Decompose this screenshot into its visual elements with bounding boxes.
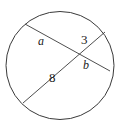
- circle-outline: [6, 12, 114, 120]
- geometry-canvas: [0, 0, 120, 130]
- segment-label-3: 3: [81, 33, 88, 46]
- geometry-figure: a 3 8 b: [0, 0, 120, 130]
- chord-8-3: [23, 32, 105, 103]
- segment-label-8: 8: [49, 71, 56, 84]
- segment-label-b: b: [83, 59, 89, 71]
- segment-label-a: a: [38, 35, 44, 47]
